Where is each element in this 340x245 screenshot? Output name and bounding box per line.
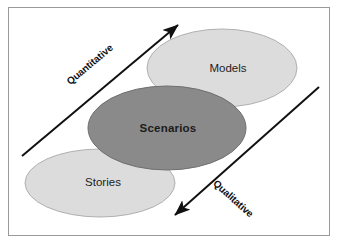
diagram-graphics: Models Stories Scenarios Quantitative Qu…	[0, 0, 340, 245]
ellipse-scenarios[interactable]: Scenarios	[88, 86, 246, 170]
ellipse-models-label: Models	[209, 62, 246, 74]
diagram-canvas: Models Stories Scenarios Quantitative Qu…	[0, 0, 340, 245]
ellipse-scenarios-label: Scenarios	[140, 122, 197, 134]
arrow-quantitative-label: Quantitative	[65, 42, 116, 87]
ellipse-stories-label: Stories	[85, 176, 121, 188]
arrow-qualitative-label: Qualitative	[211, 178, 256, 220]
